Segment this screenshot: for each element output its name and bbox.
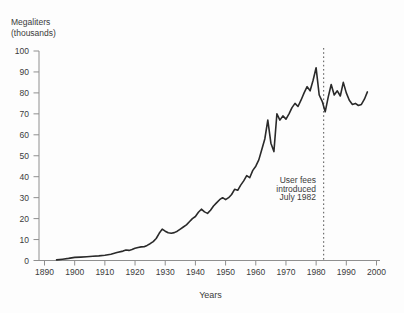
y-tick-label: 20: [20, 214, 30, 224]
y-tick-label: 50: [20, 151, 30, 161]
x-tick-label: 1940: [186, 267, 205, 277]
y-tick-label: 60: [20, 130, 30, 140]
x-tick-label: 1980: [307, 267, 326, 277]
y-tick-label: 100: [15, 46, 29, 56]
x-tick-label: 1920: [126, 267, 145, 277]
x-tick-label: 2000: [367, 267, 386, 277]
x-tick-label: 1950: [216, 267, 235, 277]
y-tick-label: 80: [20, 88, 30, 98]
x-tick-label: 1930: [156, 267, 175, 277]
x-axis-title: Years: [16, 290, 404, 300]
x-tick-label: 1960: [246, 267, 265, 277]
y-tick-label: 30: [20, 193, 30, 203]
user-fees-annotation: User fees introduced July 1982: [276, 176, 316, 202]
y-tick-label: 40: [20, 172, 30, 182]
chart-svg: 0102030405060708090100189019001910192019…: [0, 0, 404, 313]
y-tick-label: 10: [20, 235, 30, 245]
megaliters-line-chart: Megaliters (thousands) 01020304050607080…: [0, 0, 404, 313]
x-tick-label: 1910: [95, 267, 114, 277]
y-tick-label: 70: [20, 109, 30, 119]
x-tick-label: 1890: [35, 267, 54, 277]
y-tick-label: 90: [20, 67, 30, 77]
x-tick-label: 1900: [65, 267, 84, 277]
y-axis-title: Megaliters (thousands): [11, 17, 56, 38]
y-tick-label: 0: [24, 256, 29, 266]
x-tick-label: 1990: [337, 267, 356, 277]
x-tick-label: 1970: [276, 267, 295, 277]
data-line: [57, 68, 368, 260]
